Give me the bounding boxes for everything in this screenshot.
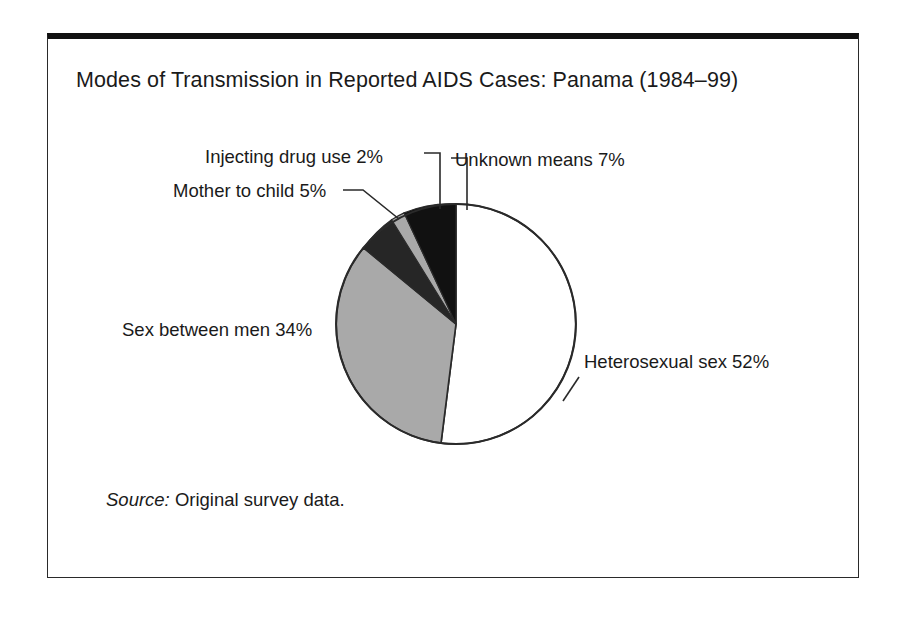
- label-heterosexual-sex: Heterosexual sex 52%: [584, 352, 769, 372]
- label-unknown-means: Unknown means 7%: [455, 150, 625, 170]
- pie-slice-heterosexual-sex[interactable]: [441, 204, 576, 444]
- label-injecting-drug-use: Injecting drug use 2%: [205, 147, 383, 167]
- figure-root: Modes of Transmission in Reported AIDS C…: [0, 0, 902, 617]
- leader-line-heterosexual-sex: [563, 377, 579, 401]
- label-mother-to-child: Mother to child 5%: [173, 181, 326, 201]
- source-value: Original survey data.: [170, 489, 345, 510]
- label-sex-between-men: Sex between men 34%: [122, 320, 312, 340]
- leader-line-mother-to-child: [343, 190, 399, 219]
- source-note: Source: Original survey data.: [106, 489, 345, 511]
- source-label: Source:: [106, 489, 170, 510]
- leader-line-injecting-drug-use: [424, 153, 440, 209]
